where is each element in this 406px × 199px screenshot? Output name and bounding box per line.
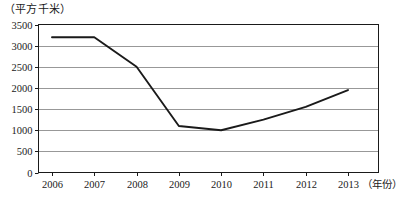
y-tick-label: 3500: [12, 20, 33, 31]
x-tick-labels-group: 20062007200820092010201120122013: [42, 179, 359, 190]
y-tick-label: 1000: [12, 125, 33, 136]
x-tick-label: 2009: [169, 179, 190, 190]
y-tick-marks-group: [35, 26, 39, 174]
data-series-line: [52, 37, 348, 130]
y-tick-label: 500: [17, 146, 33, 157]
x-tick-label: 2013: [338, 179, 359, 190]
y-tick-label: 0: [27, 168, 32, 179]
x-tick-label: 2010: [211, 179, 232, 190]
y-tick-label: 2500: [12, 62, 33, 73]
x-tick-label: 2006: [42, 179, 63, 190]
line-chart-figure: （平方千米） 0500100015002000250030003500 2006…: [0, 0, 406, 199]
x-tick-label: 2012: [296, 179, 317, 190]
x-tick-label: 2007: [84, 179, 105, 190]
chart-plot-area: 0500100015002000250030003500 20062007200…: [0, 0, 406, 199]
y-tick-label: 1500: [12, 104, 33, 115]
x-tick-label: 2008: [127, 179, 148, 190]
y-tick-labels-group: 0500100015002000250030003500: [12, 20, 33, 179]
y-tick-label: 3000: [12, 41, 33, 52]
y-tick-label: 2000: [12, 83, 33, 94]
x-tick-label: 2011: [253, 179, 274, 190]
x-axis-title: （年份）: [362, 178, 402, 191]
x-tick-marks-group: [53, 173, 349, 177]
